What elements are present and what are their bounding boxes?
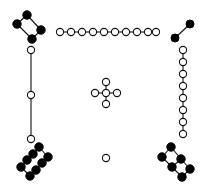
filled-node: [28, 35, 36, 43]
open-node: [179, 46, 186, 53]
open-node: [89, 28, 96, 35]
open-node: [122, 28, 129, 35]
open-node: [27, 135, 34, 142]
open-node: [102, 100, 109, 107]
open-node: [27, 91, 34, 98]
filled-node: [17, 163, 25, 171]
filled-node: [178, 173, 186, 181]
nodes-layer: [13, 11, 194, 181]
filled-node: [37, 26, 45, 34]
open-node: [179, 70, 186, 77]
filled-node: [177, 155, 185, 163]
open-node: [152, 28, 159, 35]
graph-diagram-canvas: [0, 0, 208, 194]
filled-node: [23, 11, 31, 19]
open-node: [91, 89, 98, 96]
filled-node: [167, 143, 175, 151]
filled-node: [13, 20, 21, 28]
open-node: [78, 28, 85, 35]
open-node: [133, 28, 140, 35]
open-node: [113, 89, 120, 96]
open-node: [56, 28, 63, 35]
filled-node: [186, 165, 194, 173]
open-node: [100, 28, 107, 35]
filled-node: [171, 34, 179, 42]
filled-node: [186, 20, 194, 28]
open-node: [179, 82, 186, 89]
bottom-right-filled-ring-edges: [162, 147, 190, 177]
open-node: [102, 89, 109, 96]
top-horizontal-chain: [56, 28, 159, 35]
open-node: [111, 28, 118, 35]
filled-node: [158, 153, 166, 161]
top-left-filled-ring: [13, 11, 45, 43]
filled-node: [23, 156, 31, 164]
open-node: [179, 58, 186, 65]
bottom-right-filled-ring: [158, 143, 194, 181]
open-node: [179, 106, 186, 113]
graph-diagram: [0, 0, 208, 194]
filled-node: [38, 159, 46, 167]
open-node: [102, 78, 109, 85]
open-node: [179, 118, 186, 125]
open-node: [179, 130, 186, 137]
open-node: [179, 94, 186, 101]
open-node: [27, 46, 34, 53]
filled-node: [168, 163, 176, 171]
filled-node: [35, 143, 43, 151]
filled-node: [26, 172, 34, 180]
center-cross: [91, 78, 120, 107]
bottom-center-isolated-node: [102, 154, 109, 161]
open-node: [144, 28, 151, 35]
open-node: [67, 28, 74, 35]
bottom-left-filled-ladder: [17, 143, 52, 180]
open-node: [102, 154, 109, 161]
